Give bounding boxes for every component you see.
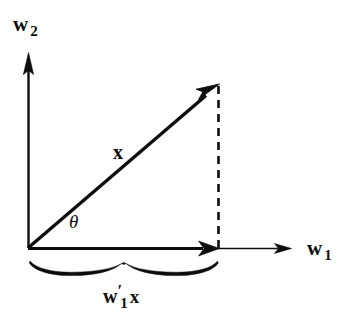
brace-center-cusp xyxy=(122,263,126,265)
projection-label-operand: x xyxy=(130,286,140,307)
vector-projection-drawing xyxy=(0,0,353,316)
axis-label-w1-subscript: 1 xyxy=(323,247,333,263)
axis-label-w2: w2 xyxy=(13,14,38,39)
axis-label-w2-subscript: 2 xyxy=(29,23,39,39)
page-background xyxy=(0,0,353,316)
figure-canvas: w2 w1 x θ w′1x xyxy=(0,0,353,316)
vector-label-x: x xyxy=(113,142,123,162)
projection-label: w′1x xyxy=(103,282,139,311)
angle-label-theta: θ xyxy=(69,212,78,231)
projection-label-subscript: 1 xyxy=(120,295,130,311)
axis-label-w1-base: w xyxy=(307,236,323,260)
axis-label-w1: w1 xyxy=(307,238,332,263)
projection-label-base: w xyxy=(103,285,117,307)
axis-label-w2-base: w xyxy=(13,12,29,36)
